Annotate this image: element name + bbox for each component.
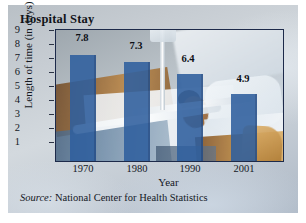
y-tick-mark bbox=[49, 44, 54, 45]
x-tick-label: 1990 bbox=[160, 163, 220, 174]
source-note: Source: National Center for Health Stati… bbox=[20, 192, 208, 203]
y-tick-label: 1 bbox=[0, 136, 20, 147]
x-axis-label: Year bbox=[55, 176, 282, 188]
bar-2001 bbox=[231, 94, 257, 161]
y-tick-mark bbox=[49, 58, 54, 59]
source-text: National Center for Health Statistics bbox=[55, 192, 208, 203]
figure-hospital-stay: Hospital Stay Length of time (in days) 9… bbox=[0, 0, 306, 223]
y-tick-label: 4 bbox=[0, 94, 20, 105]
y-tick-label: 6 bbox=[0, 66, 20, 77]
y-tick-label: 9 bbox=[0, 24, 20, 35]
y-tick-label: 7 bbox=[0, 52, 20, 63]
y-tick-mark bbox=[49, 128, 54, 129]
y-tick-label: 2 bbox=[0, 122, 20, 133]
x-tick-label: 2001 bbox=[214, 163, 274, 174]
y-tick-mark bbox=[49, 30, 54, 31]
y-tick-mark bbox=[49, 86, 54, 87]
y-tick-mark bbox=[49, 100, 54, 101]
bar-1980 bbox=[124, 62, 150, 161]
y-tick-label: 8 bbox=[0, 38, 20, 49]
y-tick-label: 5 bbox=[0, 80, 20, 91]
plot-area bbox=[55, 29, 284, 162]
x-tick-label: 1980 bbox=[107, 163, 167, 174]
bar-1970 bbox=[70, 55, 96, 161]
y-tick-label: 3 bbox=[0, 108, 20, 119]
x-tick-label: 1970 bbox=[53, 163, 113, 174]
bar-value-label: 7.3 bbox=[110, 40, 162, 51]
bar-1990 bbox=[177, 74, 203, 161]
bar-value-label: 6.4 bbox=[162, 53, 214, 64]
y-tick-mark bbox=[49, 114, 54, 115]
y-tick-mark bbox=[49, 72, 54, 73]
y-axis-label: Length of time (in days) bbox=[22, 0, 34, 123]
bar-value-label: 4.9 bbox=[217, 73, 269, 84]
y-tick-mark bbox=[49, 142, 54, 143]
source-prefix: Source: bbox=[20, 192, 52, 203]
bar-value-label: 7.8 bbox=[56, 32, 108, 43]
